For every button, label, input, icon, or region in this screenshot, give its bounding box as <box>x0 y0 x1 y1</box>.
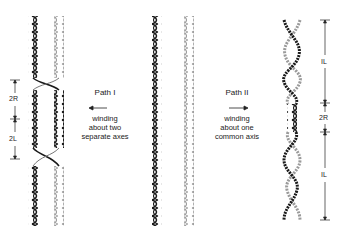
right-dim-label-2r: 2R <box>319 114 328 121</box>
left-light-braid-bottom <box>54 166 64 226</box>
path-two-title: Path II <box>212 88 262 97</box>
crossover-bottom <box>33 148 59 166</box>
left-dimension-line <box>10 80 20 159</box>
left-braid-pair <box>28 16 64 226</box>
right-supercoil <box>284 20 301 220</box>
middle-dark-braid <box>152 16 162 226</box>
left-light-braid-mid <box>54 90 64 148</box>
path-two-arrow <box>229 106 248 110</box>
path-one-line-3: separate axes <box>72 132 138 141</box>
path-two-line-2: about one <box>204 123 270 132</box>
path-one-line-2: about two <box>72 123 138 132</box>
right-dim-label-il-bottom: IL <box>321 171 327 178</box>
path-two-description: winding about one common axis <box>204 114 270 141</box>
left-dark-braid-bottom <box>28 166 38 226</box>
path-one-description: winding about two separate axes <box>72 114 138 141</box>
left-dim-label-2l: 2L <box>9 135 17 142</box>
path-one-title: Path I <box>80 88 130 97</box>
supercoil-diagram <box>0 0 341 234</box>
left-dark-braid-mid <box>28 90 38 148</box>
path-one-arrow <box>89 106 107 110</box>
left-dark-braid-top <box>28 16 38 78</box>
path-two-line-3: common axis <box>204 132 270 141</box>
left-light-braid-top <box>54 16 64 78</box>
right-dim-label-il-top: IL <box>321 58 327 65</box>
left-dim-label-2r: 2R <box>9 95 18 102</box>
middle-light-braid <box>184 16 194 226</box>
path-one-line-1: winding <box>72 114 138 123</box>
path-two-line-1: winding <box>204 114 270 123</box>
